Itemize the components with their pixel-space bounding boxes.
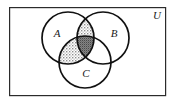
set-label-c: C [82, 67, 90, 79]
venn-diagram-figure: A B C U [0, 0, 176, 105]
venn-diagram-canvas: A B C U [0, 0, 176, 105]
set-label-b: B [111, 27, 118, 39]
universal-set-label: U [153, 9, 162, 21]
set-label-a: A [53, 27, 61, 39]
